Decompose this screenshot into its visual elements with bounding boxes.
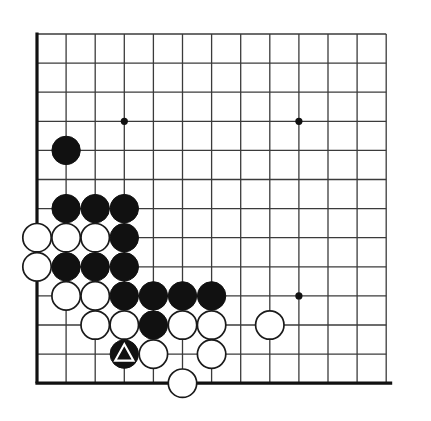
white-stone[interactable] bbox=[81, 224, 109, 252]
black-stone[interactable] bbox=[81, 194, 109, 222]
black-stone-disc[interactable] bbox=[52, 253, 80, 281]
black-stone[interactable] bbox=[52, 253, 80, 281]
white-stone[interactable] bbox=[168, 369, 196, 397]
white-stone-disc[interactable] bbox=[23, 253, 51, 281]
black-stone[interactable] bbox=[52, 136, 80, 164]
black-stone[interactable] bbox=[52, 194, 80, 222]
white-stone[interactable] bbox=[23, 253, 51, 281]
white-stone-disc[interactable] bbox=[81, 224, 109, 252]
goban-grid[interactable] bbox=[0, 0, 431, 421]
white-stone[interactable] bbox=[81, 311, 109, 339]
black-stone-disc[interactable] bbox=[52, 136, 80, 164]
star-point bbox=[295, 292, 302, 299]
white-stone-disc[interactable] bbox=[52, 282, 80, 310]
white-stone-disc[interactable] bbox=[23, 224, 51, 252]
black-stone[interactable] bbox=[110, 340, 138, 368]
black-stone-disc[interactable] bbox=[110, 194, 138, 222]
white-stone-disc[interactable] bbox=[168, 311, 196, 339]
white-stone-disc[interactable] bbox=[139, 340, 167, 368]
white-stone[interactable] bbox=[52, 282, 80, 310]
white-stone[interactable] bbox=[256, 311, 284, 339]
star-point bbox=[121, 118, 128, 125]
white-stone-disc[interactable] bbox=[110, 311, 138, 339]
black-stone[interactable] bbox=[110, 282, 138, 310]
white-stone[interactable] bbox=[197, 340, 225, 368]
white-stone-disc[interactable] bbox=[168, 369, 196, 397]
black-stone-disc[interactable] bbox=[197, 282, 225, 310]
white-stone-disc[interactable] bbox=[52, 224, 80, 252]
black-stone[interactable] bbox=[81, 253, 109, 281]
white-stone[interactable] bbox=[52, 224, 80, 252]
white-stone[interactable] bbox=[168, 311, 196, 339]
black-stone-disc[interactable] bbox=[110, 253, 138, 281]
black-stone-disc[interactable] bbox=[110, 282, 138, 310]
white-stone-disc[interactable] bbox=[197, 340, 225, 368]
black-stone[interactable] bbox=[197, 282, 225, 310]
black-stone-disc[interactable] bbox=[52, 194, 80, 222]
star-point bbox=[295, 118, 302, 125]
black-stone-disc[interactable] bbox=[139, 311, 167, 339]
black-stone[interactable] bbox=[139, 282, 167, 310]
white-stone-disc[interactable] bbox=[256, 311, 284, 339]
black-stone-disc[interactable] bbox=[168, 282, 196, 310]
white-stone-disc[interactable] bbox=[81, 282, 109, 310]
white-stone-disc[interactable] bbox=[197, 311, 225, 339]
black-stone[interactable] bbox=[110, 253, 138, 281]
white-stone-disc[interactable] bbox=[81, 311, 109, 339]
black-stone[interactable] bbox=[139, 311, 167, 339]
white-stone[interactable] bbox=[110, 311, 138, 339]
white-stone[interactable] bbox=[197, 311, 225, 339]
white-stone[interactable] bbox=[139, 340, 167, 368]
black-stone-disc[interactable] bbox=[81, 253, 109, 281]
white-stone[interactable] bbox=[81, 282, 109, 310]
black-stone-disc[interactable] bbox=[139, 282, 167, 310]
black-stone-disc[interactable] bbox=[110, 224, 138, 252]
black-stone[interactable] bbox=[168, 282, 196, 310]
go-board-diagram bbox=[0, 0, 431, 421]
black-stone-disc[interactable] bbox=[81, 194, 109, 222]
white-stone[interactable] bbox=[23, 224, 51, 252]
black-stone[interactable] bbox=[110, 224, 138, 252]
black-stone[interactable] bbox=[110, 194, 138, 222]
